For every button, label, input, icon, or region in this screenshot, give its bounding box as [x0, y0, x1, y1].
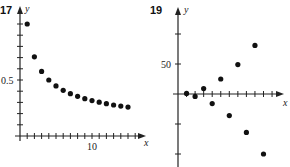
data-point: [97, 100, 102, 105]
x-tick-label: 10: [87, 141, 97, 152]
data-point: [261, 151, 266, 156]
x-axis-label: x: [282, 97, 288, 108]
data-point: [201, 86, 206, 91]
data-point: [227, 113, 232, 118]
y-axis-arrow-icon: [175, 7, 181, 15]
data-point: [46, 77, 51, 82]
data-point: [235, 62, 240, 67]
data-point: [111, 102, 116, 107]
data-point: [61, 88, 66, 93]
data-point: [32, 54, 37, 59]
data-point: [218, 76, 223, 81]
data-point: [53, 83, 58, 88]
chart-17: 100.5yx: [0, 0, 160, 167]
data-point: [25, 21, 30, 26]
data-point: [252, 43, 257, 48]
figure-19: 19 50yx: [145, 0, 290, 167]
data-point: [125, 105, 130, 110]
figure-17: 17 100.5yx: [0, 0, 145, 167]
data-point: [244, 130, 249, 135]
chart-19: 50yx: [145, 0, 290, 167]
y-axis-label: y: [183, 4, 189, 15]
y-tick-label: 0.5: [1, 75, 14, 86]
data-point: [193, 94, 198, 99]
data-point: [82, 96, 87, 101]
data-point: [118, 103, 123, 108]
y-axis-label: y: [24, 3, 30, 14]
data-point: [39, 69, 44, 74]
data-point: [68, 91, 73, 96]
data-point: [210, 101, 215, 106]
data-point: [184, 91, 189, 96]
data-point: [89, 98, 94, 103]
y-tick-label: 50: [161, 59, 171, 70]
data-point: [104, 101, 109, 106]
data-point: [75, 94, 80, 99]
y-axis-arrow-icon: [17, 6, 23, 14]
